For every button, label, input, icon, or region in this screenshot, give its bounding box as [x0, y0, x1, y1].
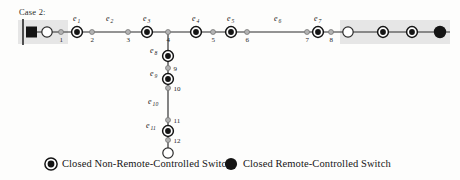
- switch-e5-inner-dot-icon: [228, 29, 234, 35]
- node-label-3: 3: [127, 36, 131, 44]
- switch-label-e3-subscript: 3: [147, 18, 151, 24]
- switch-label-e4-subscript: 4: [197, 18, 200, 24]
- switch-label-e9: e: [150, 69, 154, 78]
- node-point-11: [166, 118, 171, 123]
- switch-label-e8: e: [150, 46, 154, 55]
- node-point-12: [166, 138, 171, 143]
- switch-label-e8-subscript: 8: [155, 50, 158, 56]
- node-label-4: 4: [167, 36, 171, 44]
- node-label-8: 8: [330, 36, 334, 44]
- legend-marker-non-remote-icon: [44, 157, 58, 175]
- substation-square-icon: [26, 27, 37, 38]
- node-label-12: 12: [174, 137, 182, 145]
- node-point-6: [245, 30, 250, 35]
- node-point-7: [305, 30, 310, 35]
- switch-e4-inner-dot-icon: [193, 29, 199, 35]
- node-point-2: [90, 30, 95, 35]
- switch-label-e4: e: [192, 14, 196, 23]
- node-label-6: 6: [246, 36, 250, 44]
- switch-label-e9-subscript: 9: [155, 73, 158, 79]
- node-point-5: [211, 30, 216, 35]
- switch-e9-inner-dot-icon: [165, 76, 171, 82]
- switch-e8-inner-dot-icon: [165, 53, 171, 59]
- switch-label-e5-subscript: 5: [232, 18, 235, 24]
- switch-label-e3: e: [143, 14, 147, 23]
- switch-r2-inner-dot-icon: [409, 29, 415, 35]
- edge-label-e2-subscript: 2: [111, 18, 114, 24]
- figure-canvas: Case 2: 123456789101112e1e3e4e5e7e8e9e11…: [0, 0, 460, 180]
- node-point-8: [329, 30, 334, 35]
- node-label-7: 7: [306, 36, 310, 44]
- node-point-4: [166, 30, 171, 35]
- switch-label-e1-subscript: 1: [78, 18, 81, 24]
- node-point-9: [166, 66, 171, 71]
- network-diagram: 123456789101112e1e3e4e5e7e8e9e11e2e6e10: [0, 0, 460, 180]
- node-label-5: 5: [212, 36, 216, 44]
- node-point-1: [59, 30, 64, 35]
- node-label-9: 9: [174, 65, 178, 73]
- edge-label-e10: e: [148, 97, 152, 106]
- edge-label-e6-subscript: 6: [279, 18, 282, 24]
- switch-e1-inner-dot-icon: [74, 29, 80, 35]
- switch-label-e11: e: [146, 121, 150, 130]
- node-open-sub-open: [42, 27, 52, 37]
- legend-label-non-remote: Closed Non-Remote-Controlled Switch: [62, 158, 232, 169]
- edge-label-e2: e: [106, 14, 110, 23]
- node-point-3: [126, 30, 131, 35]
- switch-label-e1: e: [73, 14, 77, 23]
- node-label-10: 10: [174, 85, 182, 93]
- node-open-end-open-right: [343, 27, 353, 37]
- switch-label-e5: e: [227, 14, 231, 23]
- node-label-11: 11: [174, 117, 181, 125]
- edge-label-e6: e: [274, 14, 278, 23]
- remote-switch-rc-end-icon: [434, 26, 446, 38]
- node-label-1: 1: [60, 36, 64, 44]
- node-point-10: [166, 86, 171, 91]
- node-open-end-open-bottom: [163, 148, 173, 158]
- switch-e7-inner-dot-icon: [315, 29, 321, 35]
- switch-label-e7: e: [314, 14, 318, 23]
- node-label-2: 2: [91, 36, 95, 44]
- switch-label-e7-subscript: 7: [319, 18, 322, 24]
- legend-marker-remote-icon: [224, 157, 238, 175]
- switch-label-e11-subscript: 11: [151, 125, 156, 131]
- switch-e3-inner-dot-icon: [144, 29, 150, 35]
- switch-e11-inner-dot-icon: [165, 128, 171, 134]
- legend-label-remote: Closed Remote-Controlled Switch: [243, 158, 391, 169]
- edge-label-e10-subscript: 10: [153, 101, 159, 107]
- switch-r1-inner-dot-icon: [380, 29, 386, 35]
